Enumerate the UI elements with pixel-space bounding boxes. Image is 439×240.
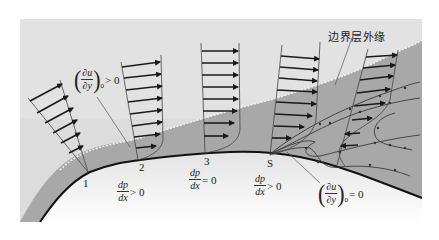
pressure-gradient-3-annotation: dp dx = 0 bbox=[189, 168, 216, 191]
wall-gradient-zero-annotation: ( ∂u ∂y ) 0 = 0 bbox=[318, 182, 364, 205]
boundary-layer-diagram: 边界层外缘 1 2 3 S ( ∂u ∂y ) 0 > 0 ( ∂u ∂y ) … bbox=[0, 0, 439, 240]
boundary-layer-edge-label: 边界层外缘 bbox=[328, 28, 386, 44]
station-2-label: 2 bbox=[139, 162, 145, 173]
station-1-label: 1 bbox=[83, 178, 89, 189]
wall-gradient-positive-annotation: ( ∂u ∂y ) 0 > 0 bbox=[74, 68, 120, 91]
station-3-label: 3 bbox=[204, 156, 210, 167]
pressure-gradient-1-annotation: dp dx > 0 bbox=[117, 180, 144, 203]
pressure-gradient-s-annotation: dp dx > 0 bbox=[254, 174, 281, 197]
station-s-label: S bbox=[267, 158, 273, 169]
